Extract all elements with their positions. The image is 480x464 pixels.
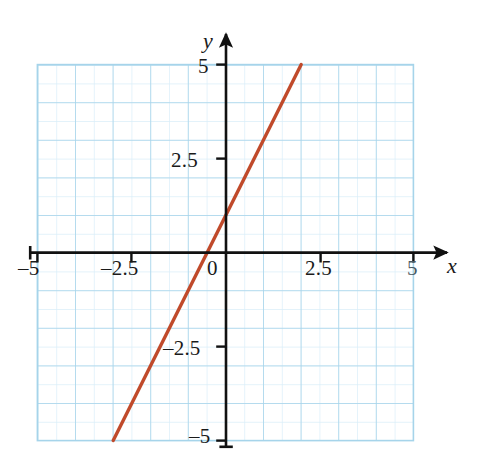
x-tick-label-neg2-5: –2.5 [101,258,139,279]
y-tick-label-5: 5 [198,56,209,77]
coordinate-plane [0,0,480,464]
graph-figure: –5 –2.5 2.5 5 5 2.5 –2.5 –5 0 y x [0,0,480,464]
x-tick-label-2-5: 2.5 [305,258,332,279]
y-tick-label-neg5: –5 [189,426,210,447]
x-tick-label-neg5: –5 [18,258,39,279]
y-tick-label-2-5: 2.5 [171,150,198,171]
origin-label: 0 [207,258,218,279]
x-axis-label: x [447,255,457,277]
y-axis-label: y [203,30,213,52]
y-tick-label-neg2-5: –2.5 [163,338,201,359]
x-tick-label-5: 5 [407,258,418,279]
